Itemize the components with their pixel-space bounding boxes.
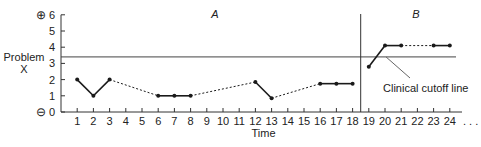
solid-segment [255,82,271,98]
cutoff-label: Clinical cutoff line [383,82,468,94]
solid-segment [77,80,93,96]
chart-container: 0123456⊕⊖ProblemX12345678910111213141516… [0,0,481,147]
x-tick-label: 7 [171,115,177,127]
data-point [367,65,371,69]
line-chart: 0123456⊕⊖ProblemX12345678910111213141516… [0,0,481,147]
x-tick-label: 21 [395,115,407,127]
solid-segment [93,80,109,96]
y-tick-label: 3 [49,57,55,69]
data-point [383,44,387,48]
x-tick-label: 5 [139,115,145,127]
data-point [108,78,112,82]
minus-icon: ⊖ [36,105,46,119]
x-tick-label: 22 [411,115,423,127]
data-point [156,94,160,98]
y-axis-label-2: X [20,63,28,75]
data-point [91,94,95,98]
x-continuation: . . . [463,115,478,127]
data-point [253,80,257,84]
x-tick-label: 14 [282,115,294,127]
solid-segment [369,46,385,67]
x-tick-label: 1 [74,115,80,127]
y-tick-label: 0 [49,106,55,118]
data-point [334,82,338,86]
callout-line [386,57,410,78]
plus-icon: ⊕ [36,8,46,22]
y-tick-label: 6 [49,9,55,21]
x-tick-label: 12 [249,115,261,127]
x-tick-label: 11 [233,115,244,127]
phase-label-a: A [210,8,218,20]
x-tick-label: 10 [217,115,229,127]
y-axis-label: Problem [4,51,45,63]
x-tick-label: 4 [123,115,129,127]
y-tick-label: 4 [49,41,55,53]
x-axis-label: Time [251,127,275,139]
data-point [270,96,274,100]
x-tick-label: 6 [155,115,161,127]
dotted-segment [191,82,256,96]
x-tick-label: 16 [314,115,326,127]
y-tick-label: 1 [49,90,55,102]
dotted-segment [110,80,159,96]
x-tick-label: 8 [188,115,194,127]
y-tick-label: 2 [49,74,55,86]
x-tick-label: 19 [363,115,375,127]
x-tick-label: 17 [330,115,342,127]
data-point [318,82,322,86]
chart-labels: AB [210,8,419,20]
x-tick-label: 18 [346,115,358,127]
x-tick-label: 9 [204,115,210,127]
dotted-segment [272,84,321,99]
phase-label-b: B [412,8,419,20]
x-tick-label: 24 [444,115,456,127]
clinical-cutoff-line: Clinical cutoff line [61,57,468,94]
data-point [448,44,452,48]
axes: 0123456⊕⊖ProblemX12345678910111213141516… [4,8,479,139]
data-point [399,44,403,48]
data-point [432,44,436,48]
data-point [75,78,79,82]
data-point [189,94,193,98]
x-tick-label: 23 [427,115,439,127]
x-tick-label: 2 [90,115,96,127]
x-tick-label: 13 [265,115,277,127]
y-tick-label: 5 [49,25,55,37]
data-point [172,94,176,98]
x-tick-label: 3 [107,115,113,127]
x-tick-label: 15 [298,115,310,127]
data-point [351,82,355,86]
x-tick-label: 20 [379,115,391,127]
